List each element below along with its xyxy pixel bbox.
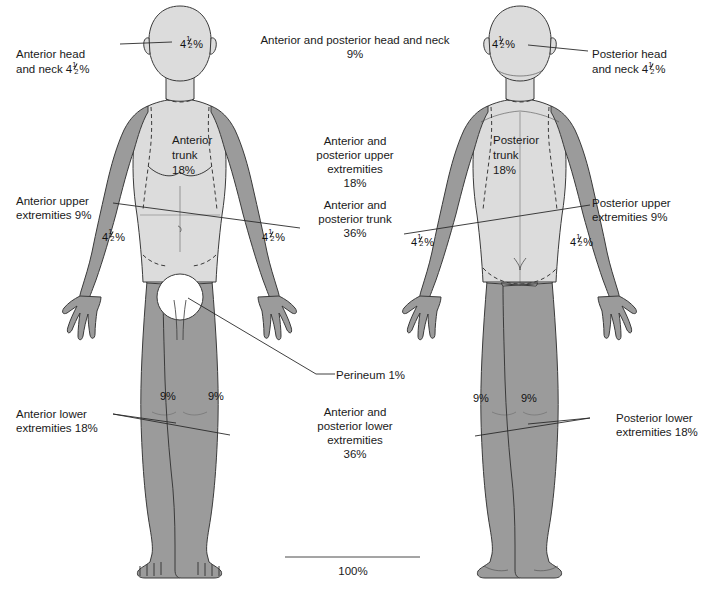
pct-posterior-arm-left: 412% bbox=[411, 234, 434, 248]
label-lower-extremities-total: Anterior and posterior lower extremities… bbox=[300, 405, 410, 461]
perineum-region bbox=[157, 274, 203, 320]
pct-posterior-head: 412% bbox=[492, 36, 515, 50]
fraction-one-half: 12 bbox=[648, 61, 655, 73]
label-anterior-lower-extremities: Anterior lower extremities 18% bbox=[16, 407, 98, 435]
pct-anterior-leg-right: 9% bbox=[208, 390, 224, 402]
body-figures-illustration: .lt { fill:#dcdcdc; stroke:#3a3a3a; stro… bbox=[0, 0, 704, 589]
label-anterior-upper-extremities: Anterior upper extremities 9% bbox=[16, 194, 91, 222]
posterior-figure bbox=[403, 6, 637, 578]
pct-anterior-head: 412% bbox=[180, 36, 203, 50]
anterior-figure bbox=[63, 6, 297, 578]
label-perineum: Perineum 1% bbox=[336, 368, 405, 382]
pct-anterior-leg-left: 9% bbox=[160, 390, 176, 402]
label-head-neck-total: Anterior and posterior head and neck 9% bbox=[255, 33, 455, 61]
pct-anterior-arm-right: 412% bbox=[262, 229, 285, 243]
pct-posterior-leg-right: 9% bbox=[521, 392, 537, 404]
rule-of-nines-diagram: .lt { fill:#dcdcdc; stroke:#3a3a3a; stro… bbox=[0, 0, 704, 589]
fraction-one-half: 12 bbox=[72, 61, 79, 73]
label-anterior-trunk: Anterior trunk 18% bbox=[172, 133, 212, 178]
pct-posterior-leg-left: 9% bbox=[473, 392, 489, 404]
label-posterior-trunk: Posterior trunk 18% bbox=[493, 133, 539, 178]
label-posterior-head-neck: Posterior head and neck 412% bbox=[592, 33, 667, 76]
pct-posterior-arm-right: 412% bbox=[570, 234, 593, 248]
label-grand-total: 100% bbox=[313, 564, 393, 578]
label-anterior-head-neck: Anterior head and neck 412% bbox=[16, 33, 90, 76]
label-posterior-lower-extremities: Posterior lower extremities 18% bbox=[616, 411, 698, 439]
label-posterior-upper-extremities: Posterior upper extremities 9% bbox=[592, 196, 671, 224]
label-upper-extremities-total: Anterior and posterior upper extremities… bbox=[300, 134, 410, 190]
pct-anterior-arm-left: 412% bbox=[102, 229, 125, 243]
label-trunk-total: Anterior and posterior trunk 36% bbox=[300, 198, 410, 240]
